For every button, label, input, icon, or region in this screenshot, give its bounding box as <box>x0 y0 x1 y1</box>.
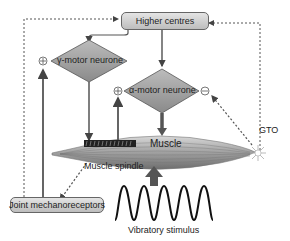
joint-mechanoreceptors-box: Joint mechanoreceptors <box>10 197 104 213</box>
joint-to-higher-dashed <box>24 19 118 205</box>
alpha-motor-label: α-motor neurone <box>129 86 196 95</box>
higher-centres-box: Higher centres <box>121 12 209 30</box>
gamma-motor-label: γ-motor neurone <box>57 56 123 65</box>
muscle-label: Muscle <box>150 139 182 149</box>
vibratory-stimulus-label: Vibratory stimulus <box>128 226 199 235</box>
gto-to-higher-dashed <box>209 23 260 150</box>
vibratory-wave <box>115 186 213 220</box>
muscle-spindle-label: Muscle spindle <box>84 162 144 171</box>
gto-to-alpha-dashed <box>212 96 252 145</box>
gto-label: GTO <box>259 126 278 135</box>
